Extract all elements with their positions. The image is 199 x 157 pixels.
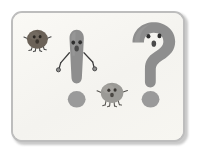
exclamation-hand-right (93, 67, 97, 71)
light-creature-eye-right (114, 88, 117, 91)
question-dot (142, 91, 160, 108)
small-light-creature (97, 83, 127, 107)
characters-scene (13, 13, 183, 140)
question-eye-right (157, 34, 161, 39)
dark-creature-mouth (35, 39, 39, 43)
question-mouth (152, 41, 157, 47)
light-creature-mouth (110, 93, 114, 97)
exclamation-eye-left (71, 40, 75, 44)
illustration-card (11, 11, 185, 142)
dark-creature-eye-left (33, 35, 36, 38)
dark-creature-eye-right (39, 35, 42, 38)
small-dark-creature (24, 30, 51, 52)
illustration-canvas (0, 0, 199, 157)
question-mark-character (133, 22, 176, 107)
exclamation-hand-left (56, 68, 60, 72)
light-creature-eye-left (107, 88, 110, 91)
exclamation-eye-right (78, 40, 82, 44)
exclamation-mouth (74, 45, 78, 51)
question-eye-left (146, 34, 150, 39)
exclamation-dot (68, 91, 86, 108)
exclamation-mark-character (56, 30, 96, 108)
